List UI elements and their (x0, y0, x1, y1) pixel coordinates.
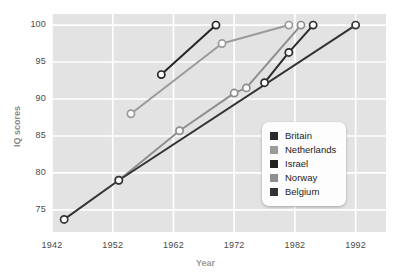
legend-label: Belgium (285, 187, 319, 197)
data-point-norway-3 (243, 84, 250, 91)
legend-swatch-icon-norway (270, 174, 278, 182)
y-tick-95: 95 (14, 56, 46, 66)
y-tick-100: 100 (14, 19, 46, 29)
data-point-britain-0 (261, 79, 268, 86)
legend-item-israel[interactable]: Israel (270, 157, 336, 171)
legend-label: Norway (285, 173, 317, 183)
data-point-norway-1 (176, 127, 183, 134)
series-line-israel (161, 25, 216, 75)
data-point-britain-2 (310, 21, 317, 28)
x-axis-title: Year (0, 258, 411, 268)
data-point-netherlands-1 (218, 40, 225, 47)
data-point-netherlands-0 (127, 110, 134, 117)
x-tick-1992: 1992 (331, 240, 381, 250)
chart-canvas (0, 0, 411, 277)
legend-label: Britain (285, 131, 312, 141)
data-point-israel-1 (212, 21, 219, 28)
y-tick-90: 90 (14, 93, 46, 103)
x-tick-1962: 1962 (148, 240, 198, 250)
series-line-netherlands (131, 25, 289, 114)
legend-item-belgium[interactable]: Belgium (270, 185, 336, 199)
legend-item-netherlands[interactable]: Netherlands (270, 143, 336, 157)
data-point-israel-0 (158, 71, 165, 78)
x-tick-1942: 1942 (27, 240, 77, 250)
legend-item-britain[interactable]: Britain (270, 129, 336, 143)
data-point-netherlands-2 (285, 21, 292, 28)
data-point-belgium-0 (61, 216, 68, 223)
y-axis-title: IQ scores (12, 106, 22, 147)
legend-label: Netherlands (285, 145, 336, 155)
iq-scores-line-chart: 7580859095100 194219521962197219821992 I… (0, 0, 411, 277)
data-point-britain-1 (285, 49, 292, 56)
data-point-norway-2 (231, 89, 238, 96)
data-point-belgium-2 (352, 21, 359, 28)
x-tick-1972: 1972 (209, 240, 259, 250)
legend-swatch-icon-israel (270, 160, 278, 168)
x-tick-1982: 1982 (270, 240, 320, 250)
legend-swatch-icon-belgium (270, 188, 278, 196)
legend-swatch-icon-netherlands (270, 146, 278, 154)
legend[interactable]: BritainNetherlandsIsraelNorwayBelgium (262, 122, 346, 206)
data-point-norway-4 (297, 21, 304, 28)
y-tick-80: 80 (14, 167, 46, 177)
data-point-belgium-1 (115, 177, 122, 184)
legend-item-norway[interactable]: Norway (270, 171, 336, 185)
legend-swatch-icon-britain (270, 132, 278, 140)
y-tick-75: 75 (14, 204, 46, 214)
legend-label: Israel (285, 159, 308, 169)
x-tick-1952: 1952 (88, 240, 138, 250)
